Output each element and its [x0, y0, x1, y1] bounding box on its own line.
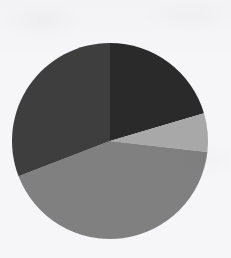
- pie-chart-figure: [0, 0, 231, 258]
- pie-chart-svg: [0, 0, 231, 258]
- pie-slice-group: [12, 43, 208, 239]
